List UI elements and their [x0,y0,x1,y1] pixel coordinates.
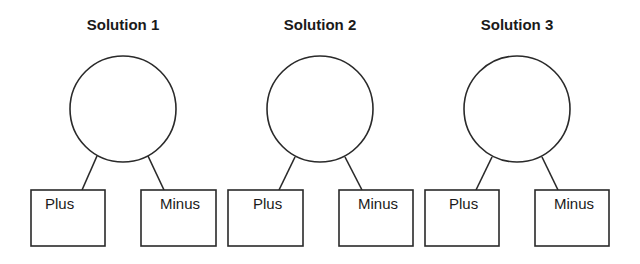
solutions-diagram: Solution 1 Plus Minus Solution 2 Plus Mi… [0,0,640,264]
solution-3: Solution 3 Plus Minus [425,16,609,246]
solution-2-title: Solution 2 [284,16,357,33]
solution-3-minus-connector [542,157,558,190]
solution-2-minus-label: Minus [358,195,398,212]
solution-1: Solution 1 Plus Minus [31,16,216,246]
solution-2-circle [267,56,373,162]
solution-2-plus-connector [279,157,295,190]
solution-3-plus-connector [476,157,492,190]
solution-3-plus-label: Plus [449,195,478,212]
solution-1-minus-connector [148,156,164,190]
solution-3-minus-label: Minus [554,195,594,212]
solution-2-minus-connector [345,157,362,190]
solution-3-circle [464,56,570,162]
solution-1-title: Solution 1 [87,16,160,33]
solution-1-plus-label: Plus [45,195,74,212]
solution-3-title: Solution 3 [481,16,554,33]
solution-2-plus-label: Plus [253,195,282,212]
solution-1-minus-label: Minus [160,195,200,212]
solution-1-plus-connector [82,156,97,190]
solution-2: Solution 2 Plus Minus [228,16,413,246]
solution-1-circle [70,56,176,162]
